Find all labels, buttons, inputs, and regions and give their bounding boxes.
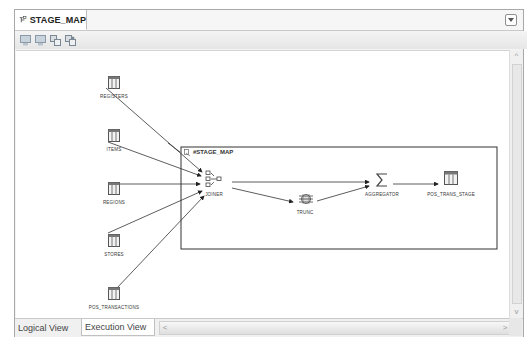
view-tabs: Logical View Execution View < >: [15, 318, 523, 337]
source-pos-transactions-label: POS_TRANSACTIONS: [89, 305, 139, 310]
execution-unit-icon: [184, 149, 191, 157]
mapping-editor: STAGE_MAP: [14, 9, 524, 337]
joiner-node[interactable]: [205, 170, 223, 192]
source-regions-icon[interactable]: [108, 181, 120, 199]
toolbar-button-4[interactable]: [64, 34, 77, 47]
source-pos-transactions-icon[interactable]: [108, 286, 120, 304]
toolbar-button-1[interactable]: [19, 34, 32, 47]
tab-execution-view[interactable]: Execution View: [81, 319, 155, 336]
source-items-label: ITEMS: [107, 147, 122, 152]
source-stores-label: STORES: [104, 252, 124, 257]
joiner-icon: [205, 170, 223, 188]
tab-list-button[interactable]: [505, 14, 517, 26]
toolbar-button-2[interactable]: [34, 34, 47, 47]
execution-unit-box: [181, 147, 497, 249]
pos-trans-stage-label: POS_TRANS_STAGE: [427, 192, 475, 197]
execution-unit-label: #STAGE_MAP: [193, 149, 233, 155]
table-icon: [108, 234, 120, 247]
table-icon: [108, 129, 120, 142]
diagram-connectors: [16, 51, 509, 319]
tab-title: STAGE_MAP: [30, 15, 86, 25]
table-icon: [108, 287, 120, 300]
diagram-toolbar: [15, 31, 527, 49]
sigma-icon: [375, 172, 389, 188]
trunc-label: TRUNC: [297, 210, 314, 215]
vertical-scroll-thumb[interactable]: [512, 64, 522, 304]
trunc-node[interactable]: [298, 192, 314, 210]
table-icon: [108, 182, 120, 195]
horizontal-scrollbar[interactable]: < >: [159, 321, 511, 335]
refresh-layout-icon: [65, 35, 76, 46]
tab-logical-view[interactable]: Logical View: [15, 319, 81, 336]
source-regions-label: REGIONS: [103, 200, 125, 205]
scroll-up-button[interactable]: ^: [510, 50, 523, 62]
aggregator-label: AGGREGATOR: [365, 192, 399, 197]
toolbar-button-3[interactable]: [49, 34, 62, 47]
scroll-down-button[interactable]: v: [510, 306, 523, 318]
pos-trans-stage-node[interactable]: [444, 171, 458, 189]
table-icon: [108, 76, 120, 89]
diagram-alt-icon: [35, 35, 46, 46]
source-stores-icon[interactable]: [108, 233, 120, 251]
vertical-scrollbar[interactable]: ^ v: [509, 50, 523, 318]
scroll-left-button[interactable]: <: [160, 322, 170, 334]
mapping-icon: [19, 15, 27, 25]
source-registers-icon[interactable]: [108, 75, 120, 93]
expression-icon: [298, 192, 314, 206]
joiner-label: JOINER: [205, 192, 223, 197]
tab-stage-map[interactable]: STAGE_MAP: [15, 10, 87, 30]
layout-icon: [50, 35, 61, 46]
diagram-canvas[interactable]: REGISTERS ITEMS REGIONS STORES POS_TRANS…: [16, 50, 509, 319]
editor-tabstrip: STAGE_MAP: [15, 10, 523, 31]
scroll-corner: [509, 318, 522, 336]
diagram-icon: [20, 35, 31, 46]
source-items-icon[interactable]: [108, 128, 120, 146]
table-icon: [444, 171, 458, 185]
chevron-down-icon: [508, 18, 514, 22]
aggregator-node[interactable]: [375, 172, 389, 192]
source-registers-label: REGISTERS: [100, 94, 128, 99]
